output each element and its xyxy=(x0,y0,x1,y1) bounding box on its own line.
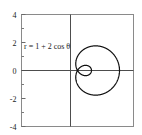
y-axis-tick-label: -2 xyxy=(10,95,17,104)
y-axis-tick-label: -4 xyxy=(10,123,17,132)
y-axis-tick-label: 2 xyxy=(13,39,17,48)
chart-canvas: 420-2-4 r = 1 + 2 cos θ xyxy=(0,0,142,135)
y-axis-tick-label: 0 xyxy=(13,67,17,76)
polar-plot-figure: 420-2-4 r = 1 + 2 cos θ xyxy=(0,0,142,135)
equation-annotation: r = 1 + 2 cos θ xyxy=(24,42,70,51)
y-axis-tick-label: 4 xyxy=(13,11,17,20)
